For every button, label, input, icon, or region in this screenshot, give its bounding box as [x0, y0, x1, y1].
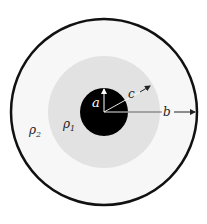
label-a: a	[92, 95, 100, 110]
label-b: b	[163, 105, 171, 119]
concentric-sphere-diagram: a c b ρ1 ρ2	[0, 0, 207, 224]
label-c: c	[128, 87, 135, 101]
